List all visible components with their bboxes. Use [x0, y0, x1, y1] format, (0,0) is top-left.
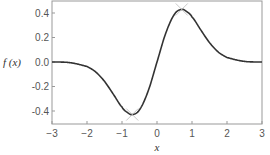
y-tick-label: 0.4 [35, 8, 49, 19]
y-tick-label: 0.2 [35, 32, 49, 43]
line-chart: −3−2−101230.40.20.0-0.2-0.4xf (x) [0, 0, 270, 155]
x-tick-label: 2 [224, 128, 230, 139]
x-tick-label: 3 [259, 128, 265, 139]
x-tick-label: −3 [46, 128, 58, 139]
x-tick-label: −2 [81, 128, 93, 139]
function-curve [52, 9, 262, 114]
x-tick-label: 1 [189, 128, 195, 139]
x-tick-label: −1 [116, 128, 128, 139]
y-tick-label: 0.0 [35, 57, 49, 68]
plot-area: −3−2−101230.40.20.0-0.2-0.4xf (x) [3, 1, 265, 153]
y-axis-label: f (x) [3, 56, 21, 69]
y-tick-label: -0.4 [32, 106, 50, 117]
y-tick-label: -0.2 [32, 81, 50, 92]
x-tick-label: 0 [154, 128, 160, 139]
x-axis-label: x [154, 141, 160, 153]
